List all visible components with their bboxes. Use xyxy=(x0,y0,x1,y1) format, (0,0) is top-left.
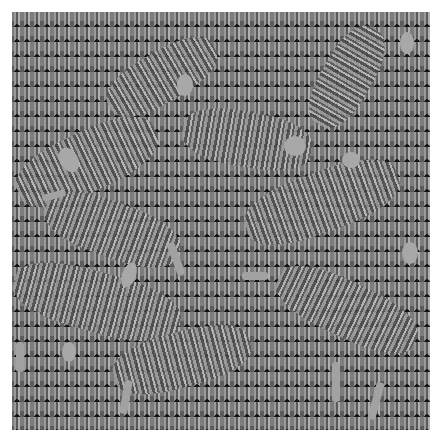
head-shape xyxy=(400,32,414,54)
head-shape xyxy=(177,74,193,96)
hidden-figure xyxy=(267,253,426,366)
limb-shape xyxy=(16,342,24,372)
limb-shape xyxy=(332,362,340,402)
head-shape xyxy=(284,136,306,156)
head-shape xyxy=(402,242,418,264)
hidden-figure xyxy=(298,17,396,137)
limb-shape xyxy=(242,272,268,280)
head-shape xyxy=(342,152,360,168)
head-shape xyxy=(62,342,76,362)
limb-shape xyxy=(367,382,385,421)
pattern-canvas xyxy=(12,12,430,430)
